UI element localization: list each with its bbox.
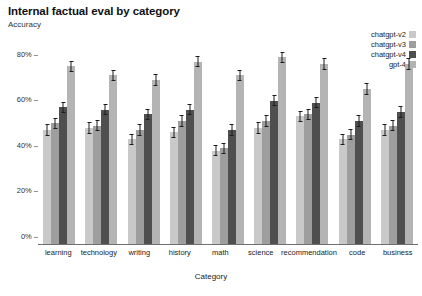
bar-chatgpt-v2[interactable] bbox=[170, 40, 178, 244]
bar-chatgpt-v3[interactable] bbox=[51, 40, 59, 244]
bar-chatgpt-v2[interactable] bbox=[43, 40, 51, 244]
error-bar bbox=[266, 115, 267, 126]
x-axis-tick-label: history bbox=[160, 248, 201, 257]
bar-rect bbox=[85, 128, 93, 244]
bar-rect bbox=[347, 135, 355, 244]
bar-rect bbox=[236, 75, 244, 244]
error-bar bbox=[358, 115, 359, 126]
bar-chatgpt-v3[interactable] bbox=[262, 40, 270, 244]
x-axis-tick-label: code bbox=[337, 248, 378, 257]
error-bar bbox=[400, 106, 401, 117]
bar-chatgpt-v3[interactable] bbox=[136, 40, 144, 244]
bar-rect bbox=[109, 75, 117, 244]
x-axis-labels: learningtechnologywritinghistorymathscie… bbox=[38, 248, 418, 257]
bar-rect bbox=[278, 57, 286, 244]
error-bar bbox=[197, 56, 198, 67]
bar-gpt-4[interactable] bbox=[405, 40, 413, 244]
bar-rect bbox=[228, 130, 236, 244]
bar-chatgpt-v3[interactable] bbox=[178, 40, 186, 244]
bar-rect bbox=[136, 130, 144, 244]
bar-groups bbox=[38, 40, 418, 244]
bar-chatgpt-v2[interactable] bbox=[212, 40, 220, 244]
bar-chatgpt-v4[interactable] bbox=[312, 40, 320, 244]
error-bar bbox=[215, 145, 216, 156]
error-bar bbox=[316, 97, 317, 108]
bar-chatgpt-v2[interactable] bbox=[296, 40, 304, 244]
error-bar bbox=[147, 109, 148, 120]
error-bar bbox=[239, 70, 240, 81]
bar-chatgpt-v2[interactable] bbox=[381, 40, 389, 244]
y-axis-tick: 0% – bbox=[4, 232, 41, 241]
legend-item-chatgpt-v2[interactable]: chatgpt-v2 bbox=[371, 30, 416, 39]
error-bar bbox=[189, 104, 190, 115]
plot-area: 0% –20% –40% –60% –80% – bbox=[38, 40, 418, 245]
bar-chatgpt-v4[interactable] bbox=[270, 40, 278, 244]
bar-rect bbox=[220, 148, 228, 244]
bar-chatgpt-v4[interactable] bbox=[144, 40, 152, 244]
x-axis-tick-label: recommendation bbox=[281, 248, 337, 257]
bar-chatgpt-v4[interactable] bbox=[397, 40, 405, 244]
bar-chatgpt-v2[interactable] bbox=[339, 40, 347, 244]
bar-rect bbox=[101, 110, 109, 244]
x-axis-tick-label: writing bbox=[119, 248, 160, 257]
bar-chatgpt-v3[interactable] bbox=[347, 40, 355, 244]
bar-chatgpt-v4[interactable] bbox=[59, 40, 67, 244]
bar-chatgpt-v3[interactable] bbox=[220, 40, 228, 244]
error-bar bbox=[89, 122, 90, 133]
bar-gpt-4[interactable] bbox=[278, 40, 286, 244]
chart-subtitle: Accuracy bbox=[8, 20, 41, 29]
bar-gpt-4[interactable] bbox=[363, 40, 371, 244]
bar-rect bbox=[128, 139, 136, 244]
bar-chatgpt-v2[interactable] bbox=[254, 40, 262, 244]
x-axis-tick-label: business bbox=[377, 248, 418, 257]
x-axis-tick-label: science bbox=[241, 248, 282, 257]
bar-rect bbox=[43, 130, 51, 244]
bar-rect bbox=[59, 107, 67, 244]
error-bar bbox=[300, 111, 301, 122]
error-bar bbox=[173, 127, 174, 138]
error-bar bbox=[139, 124, 140, 135]
bar-chatgpt-v3[interactable] bbox=[304, 40, 312, 244]
bar-rect bbox=[186, 110, 194, 244]
error-bar bbox=[392, 120, 393, 131]
bar-rect bbox=[270, 101, 278, 245]
bar-rect bbox=[144, 114, 152, 244]
error-bar bbox=[308, 109, 309, 120]
bar-rect bbox=[320, 64, 328, 244]
error-bar bbox=[131, 134, 132, 145]
error-bar bbox=[55, 118, 56, 129]
error-bar bbox=[258, 122, 259, 133]
bar-chatgpt-v3[interactable] bbox=[389, 40, 397, 244]
bar-gpt-4[interactable] bbox=[320, 40, 328, 244]
bar-chatgpt-v2[interactable] bbox=[128, 40, 136, 244]
bar-rect bbox=[254, 128, 262, 244]
x-axis-tick-label: technology bbox=[79, 248, 120, 257]
bar-rect bbox=[170, 132, 178, 244]
bar-chatgpt-v4[interactable] bbox=[101, 40, 109, 244]
error-bar bbox=[223, 143, 224, 154]
error-bar bbox=[105, 104, 106, 115]
chart-container: Internal factual eval by category Accura… bbox=[0, 0, 422, 296]
bar-gpt-4[interactable] bbox=[109, 40, 117, 244]
bar-rect bbox=[363, 89, 371, 244]
bar-chatgpt-v4[interactable] bbox=[355, 40, 363, 244]
bar-chatgpt-v2[interactable] bbox=[85, 40, 93, 244]
y-axis-tick: 20% – bbox=[4, 186, 41, 195]
bar-gpt-4[interactable] bbox=[194, 40, 202, 244]
error-bar bbox=[384, 124, 385, 135]
bar-rect bbox=[405, 64, 413, 244]
bar-chatgpt-v4[interactable] bbox=[228, 40, 236, 244]
chart-title: Internal factual eval by category bbox=[8, 5, 180, 17]
bar-gpt-4[interactable] bbox=[67, 40, 75, 244]
error-bar bbox=[63, 102, 64, 113]
bar-gpt-4[interactable] bbox=[236, 40, 244, 244]
bar-gpt-4[interactable] bbox=[152, 40, 160, 244]
bar-chatgpt-v3[interactable] bbox=[93, 40, 101, 244]
y-axis-tick: 40% – bbox=[4, 140, 41, 149]
bar-group bbox=[80, 40, 122, 244]
bar-chatgpt-v4[interactable] bbox=[186, 40, 194, 244]
error-bar bbox=[113, 70, 114, 81]
error-bar bbox=[71, 61, 72, 72]
bar-group bbox=[207, 40, 249, 244]
error-bar bbox=[97, 120, 98, 131]
